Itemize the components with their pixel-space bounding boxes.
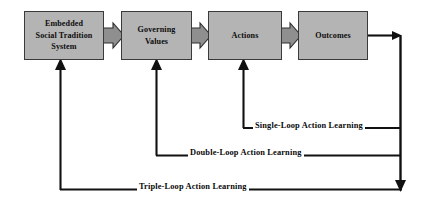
node-governing-values[interactable]: Governing Values bbox=[121, 11, 192, 60]
node-outcomes[interactable]: Outcomes bbox=[298, 11, 368, 60]
single-loop-path bbox=[238, 58, 401, 128]
node-label-governing-values: Governing Values bbox=[124, 24, 189, 47]
node-embedded-social-tradition-system[interactable]: Embedded Social Tradition System bbox=[24, 11, 104, 60]
triple-loop-label: Triple-Loop Action Learning bbox=[137, 183, 249, 191]
double-loop-label: Double-Loop Action Learning bbox=[188, 149, 304, 157]
node-actions[interactable]: Actions bbox=[208, 11, 282, 60]
node-label-outcomes: Outcomes bbox=[301, 30, 365, 41]
node-label-actions: Actions bbox=[211, 30, 279, 41]
outcomes-output-connector bbox=[368, 31, 402, 190]
triple-loop-action-learning-diagram: Embedded Social Tradition System Governi… bbox=[0, 0, 422, 210]
double-loop-path bbox=[151, 58, 401, 156]
node-label-embedded-social-tradition-system: Embedded Social Tradition System bbox=[27, 18, 101, 52]
single-loop-label: Single-Loop Action Learning bbox=[253, 122, 365, 130]
